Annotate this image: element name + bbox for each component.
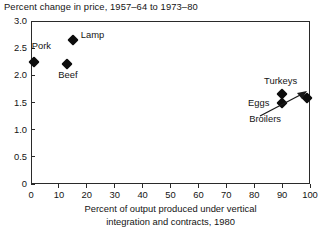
x-axis-tick-mark: [170, 184, 171, 188]
x-axis-title-line1: Percent of output produced under vertica…: [31, 203, 310, 216]
x-axis-tick-label: 50: [156, 190, 186, 200]
y-axis-tick-label: 0.5: [1, 152, 27, 162]
x-axis-tick-mark: [142, 184, 143, 188]
chart-figure: Percent change in price, 1957–64 to 1973…: [0, 0, 331, 235]
y-axis-tick-mark: [31, 156, 35, 157]
y-axis-tick-label: 1.0: [1, 125, 27, 135]
data-point-label: Beef: [58, 70, 77, 80]
x-axis-tick-label: 80: [239, 190, 269, 200]
x-axis-tick-label: 100: [295, 190, 325, 200]
y-axis-tick-label: 0: [1, 179, 27, 189]
x-axis-tick-label: 30: [100, 190, 130, 200]
y-axis-tick-mark: [31, 102, 35, 103]
x-axis-tick-label: 20: [72, 190, 102, 200]
x-axis-tick-label: 60: [183, 190, 213, 200]
x-axis-tick-mark: [114, 184, 115, 188]
broilers-arrow-icon: [252, 90, 312, 120]
y-axis-tick-label: 2.0: [1, 70, 27, 80]
y-axis-tick-label: 3.0: [1, 16, 27, 26]
y-axis-tick-label: 1.5: [1, 98, 27, 108]
data-point-label: Turkeys: [264, 76, 297, 86]
x-axis-tick-mark: [310, 184, 311, 188]
x-axis-tick-label: 70: [211, 190, 241, 200]
y-axis-tick-mark: [31, 129, 35, 130]
y-axis-tick-mark: [31, 184, 35, 185]
x-axis-tick-label: 10: [44, 190, 74, 200]
x-axis-tick-label: 90: [267, 190, 297, 200]
data-point-label: Lamp: [81, 30, 104, 40]
x-axis-tick-mark: [58, 184, 59, 188]
x-axis-tick-mark: [282, 184, 283, 188]
x-axis-title-line2: integration and contracts, 1980: [31, 216, 310, 229]
y-axis-tick-label: 2.5: [1, 43, 27, 53]
x-axis-tick-mark: [254, 184, 255, 188]
chart-title: Percent change in price, 1957–64 to 1973…: [4, 1, 198, 13]
y-axis-tick-mark: [31, 75, 35, 76]
data-point-label: Pork: [32, 41, 51, 51]
x-axis-tick-label: 0: [16, 190, 46, 200]
x-axis-title: Percent of output produced under vertica…: [31, 203, 310, 228]
x-axis-tick-mark: [226, 184, 227, 188]
x-axis-tick-mark: [198, 184, 199, 188]
y-axis-tick-mark: [31, 21, 35, 22]
x-axis-tick-label: 40: [128, 190, 158, 200]
x-axis-tick-mark: [86, 184, 87, 188]
